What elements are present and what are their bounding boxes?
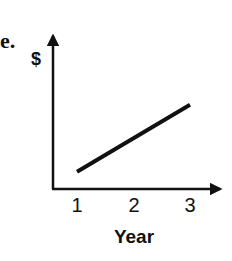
x-axis-label: Year xyxy=(114,226,154,248)
x-tick-2: 2 xyxy=(128,194,139,217)
x-tick-3: 3 xyxy=(184,194,195,217)
x-tick-1: 1 xyxy=(71,194,82,217)
chart-plot xyxy=(0,0,232,261)
data-line xyxy=(77,105,190,172)
